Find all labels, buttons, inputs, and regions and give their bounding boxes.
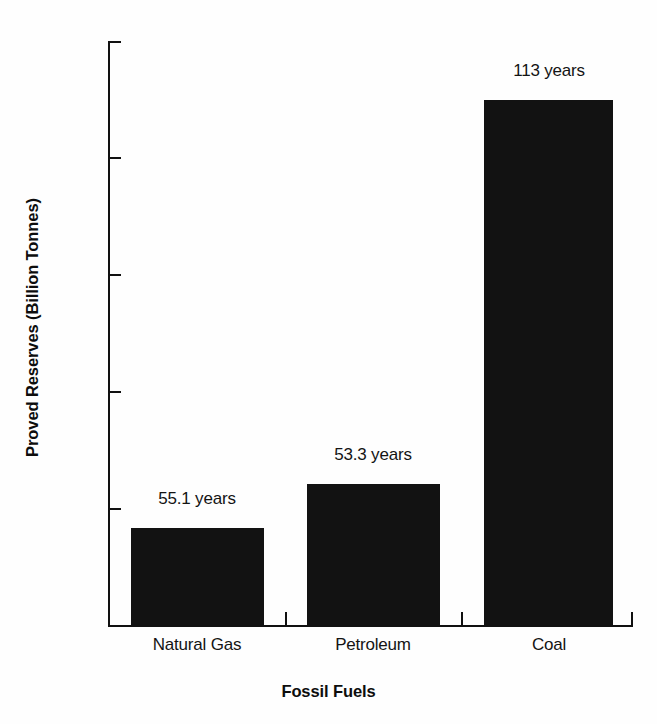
bar-natural-gas bbox=[131, 528, 264, 625]
bar-petroleum bbox=[307, 484, 440, 625]
y-axis-line bbox=[108, 41, 110, 627]
x-axis-label-natural-gas: Natural Gas bbox=[117, 635, 277, 655]
y-axis-tick-mark bbox=[108, 41, 121, 43]
bar-value-label-coal: 113 years bbox=[469, 61, 629, 81]
x-axis-title: Fossil Fuels bbox=[0, 682, 657, 701]
y-axis-tick-mark bbox=[108, 391, 121, 393]
x-axis-line bbox=[108, 625, 633, 627]
bar-value-label-petroleum: 53.3 years bbox=[293, 445, 453, 465]
y-axis-tick-mark bbox=[108, 274, 121, 276]
bar-chart: Proved Reserves (Billion Tonnes) 1,000 8… bbox=[0, 0, 657, 724]
x-axis-tick-mark-1 bbox=[285, 612, 287, 627]
y-axis-title: Proved Reserves (Billion Tonnes) bbox=[23, 88, 42, 568]
x-axis-label-coal: Coal bbox=[469, 635, 629, 655]
x-axis-right-cap bbox=[631, 612, 633, 627]
bar-coal bbox=[484, 100, 613, 625]
x-axis-label-petroleum: Petroleum bbox=[293, 635, 453, 655]
y-axis-tick-mark bbox=[108, 157, 121, 159]
x-axis-tick-mark-2 bbox=[461, 612, 463, 627]
bar-value-label-natural-gas: 55.1 years bbox=[117, 489, 277, 509]
